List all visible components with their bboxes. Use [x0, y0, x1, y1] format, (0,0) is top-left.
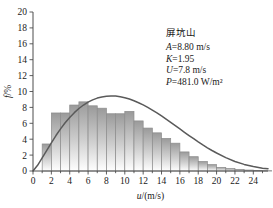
x-tick-label: 12 — [138, 176, 148, 186]
wind-speed-distribution-figure: 024681012141618202224 02468101214161820 … — [0, 0, 273, 208]
histogram-bar — [88, 106, 97, 171]
parameter-annotations: A=8.80 m/sK=1.95U=7.8 m/sP=481.0 W/m² — [165, 42, 223, 87]
histogram-bar — [152, 133, 161, 171]
chart-canvas: 024681012141618202224 02468101214161820 … — [0, 0, 273, 208]
histogram-bar — [106, 114, 115, 171]
x-tick-label: 10 — [120, 176, 130, 186]
x-tick-label: 4 — [67, 176, 72, 186]
histogram-bar — [116, 114, 125, 171]
histogram-bar — [143, 128, 152, 171]
y-tick-label: 4 — [22, 135, 27, 145]
y-tick-label: 20 — [18, 7, 28, 17]
parameter-line: A=8.80 m/s — [165, 42, 210, 52]
histogram-bar — [189, 157, 198, 171]
y-tick-label: 6 — [22, 119, 27, 129]
y-tick-label: 14 — [18, 55, 28, 65]
x-axis-tick-labels: 024681012141618202224 — [31, 176, 259, 186]
x-tick-label: 2 — [49, 176, 54, 186]
x-axis-title: u/(m/s) — [137, 191, 164, 202]
y-axis-tick-labels: 02468101214161820 — [18, 7, 28, 176]
histogram-bar — [162, 138, 171, 171]
histogram-bar — [198, 161, 207, 171]
y-tick-label: 10 — [18, 87, 28, 97]
parameter-line: K=1.95 — [165, 54, 195, 64]
x-tick-label: 0 — [31, 176, 36, 186]
x-tick-label: 18 — [193, 176, 203, 186]
site-name-label: 屏坑山 — [166, 27, 196, 38]
histogram-bar — [134, 121, 143, 171]
histogram-bar — [180, 152, 189, 171]
histogram-bar — [207, 165, 216, 171]
x-tick-label: 6 — [86, 176, 91, 186]
parameter-line: P=481.0 W/m² — [165, 77, 223, 87]
y-tick-label: 0 — [22, 166, 27, 176]
histogram-bar — [97, 108, 106, 171]
x-tick-label: 20 — [212, 176, 222, 186]
histogram-bar — [125, 111, 134, 171]
y-tick-label: 8 — [22, 103, 27, 113]
y-tick-label: 12 — [18, 71, 28, 81]
y-tick-label: 18 — [18, 23, 28, 33]
histogram-bar — [79, 102, 88, 171]
histogram-bar — [217, 167, 226, 171]
histogram-bar — [42, 144, 51, 171]
x-tick-label: 22 — [230, 176, 240, 186]
parameter-line: U=7.8 m/s — [166, 65, 207, 75]
x-tick-label: 16 — [175, 176, 185, 186]
y-tick-label: 2 — [22, 151, 27, 161]
x-tick-label: 14 — [157, 176, 167, 186]
y-tick-label: 16 — [18, 39, 28, 49]
y-axis-title: f/% — [3, 85, 13, 98]
histogram-bar — [171, 143, 180, 171]
x-tick-label: 8 — [104, 176, 109, 186]
x-tick-label: 24 — [249, 176, 259, 186]
